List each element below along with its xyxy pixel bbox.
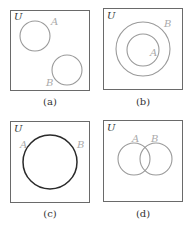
set-b-label-a: B — [45, 77, 53, 88]
set-a-label-c: A — [19, 139, 27, 150]
set-b-circle-a — [52, 55, 82, 85]
universe-label-c: U — [14, 123, 23, 134]
venn-diagrams-figure: U A B (a) U B A (b) U A B (c) U A B (d) — [0, 0, 188, 229]
caption-c: (c) — [43, 208, 57, 219]
set-a-label-a: A — [50, 16, 58, 27]
caption-d: (d) — [136, 208, 150, 219]
set-a-label-d: A — [131, 133, 139, 144]
universe-label-a: U — [14, 11, 23, 22]
universe-label-d: U — [107, 122, 116, 133]
diagram-b: U B A (b) — [104, 9, 183, 108]
set-b-label-b: B — [163, 18, 171, 29]
diagram-d: U A B (d) — [104, 121, 183, 220]
diagram-a: U A B (a) — [11, 11, 90, 108]
caption-b: (b) — [136, 96, 150, 107]
set-a-b-circle-c — [23, 135, 77, 189]
set-b-label-d: B — [150, 133, 158, 144]
set-b-circle-d — [140, 143, 172, 175]
caption-a: (a) — [43, 96, 57, 107]
set-a-circle-a — [20, 21, 50, 51]
universe-label-b: U — [107, 10, 116, 21]
set-b-circle-b — [116, 22, 170, 76]
set-b-label-c: B — [76, 139, 84, 150]
diagram-c: U A B (c) — [11, 122, 90, 220]
set-a-label-b: A — [149, 47, 157, 58]
